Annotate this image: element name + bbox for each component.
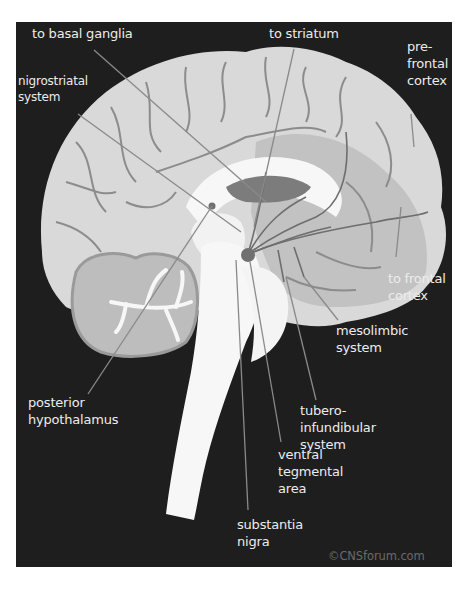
label-posterior-hypothalamus: posterior hypothalamus [28,394,118,428]
label-to-frontal-cortex: to frontal cortex [388,270,446,304]
label-nigrostriatal-system: nigrostriatal system [18,74,88,105]
label-ventral-tegmental-area: ventral tegmental area [278,446,343,497]
label-substantia-nigra: substantia nigra [237,516,303,550]
label-to-striatum: to striatum [269,26,339,42]
vta-node [241,248,255,262]
label-prefrontal-cortex: pre- frontal cortex [407,38,448,89]
brain-diagram-panel: to basal ganglia to striatum pre- fronta… [16,22,452,567]
label-to-basal-ganglia: to basal ganglia [32,26,133,42]
watermark: ©CNSforum.com [328,549,425,563]
label-mesolimbic-system: mesolimbic system [336,322,408,356]
